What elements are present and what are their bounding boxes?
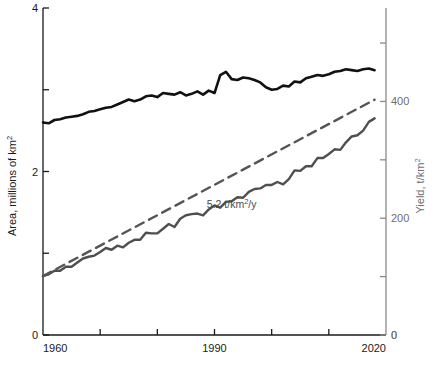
left-tick-label: 4	[32, 2, 38, 14]
left-tick-label: 0	[32, 329, 38, 341]
series-annotation: 5.2 t/km2/y	[207, 197, 257, 210]
right-tick-label: 400	[391, 95, 409, 107]
x-tick-label: 2020	[362, 342, 386, 354]
chart-container: 024 02004000 196019902020 5.2 t/km2/y Ar…	[0, 0, 436, 365]
left-tick-label: 2	[32, 166, 38, 178]
x-tick-label: 1990	[202, 342, 226, 354]
chart-figure: 024 02004000 196019902020 5.2 t/km2/y Ar…	[0, 0, 436, 365]
left-axis-title: Area, millions of km2	[5, 136, 18, 236]
right-axis-title: Yield, t/km2	[413, 158, 426, 213]
annotations-group: 5.2 t/km2/y	[207, 197, 257, 210]
right-axis-zero-label: 0	[391, 329, 397, 341]
x-tick-label: 1960	[43, 342, 67, 354]
plot-area-background	[43, 8, 386, 335]
right-tick-label: 200	[391, 212, 409, 224]
